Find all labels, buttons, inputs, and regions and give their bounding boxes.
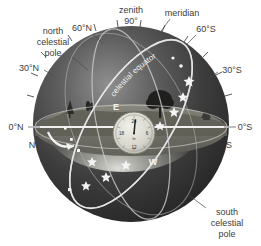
dec-60s-label: 60°S xyxy=(196,24,216,34)
cardinal-east-label: E xyxy=(113,102,119,112)
dial-label-bottom: 12 xyxy=(131,145,137,150)
diagram-canvas: 24 6 12 18 hr E W celestial equator nort… xyxy=(0,0,261,246)
cardinal-south-label: S xyxy=(226,140,232,150)
cardinal-west-label: W xyxy=(149,157,158,167)
dial-label-right: 6 xyxy=(146,131,149,136)
cardinal-north-label: N xyxy=(29,140,36,150)
dial-label-left: 18 xyxy=(119,131,125,136)
zenith-label: zenith xyxy=(119,5,143,15)
dec-0n-label: 0°N xyxy=(8,122,23,132)
meridian-label: meridian xyxy=(165,8,200,18)
dec-60n-label: 60°N xyxy=(72,23,92,33)
dec-30s-label: 30°S xyxy=(222,65,242,75)
celestial-sphere-figure: 24 6 12 18 hr E W celestial equator nort… xyxy=(0,0,261,246)
zenith-value-label: 90° xyxy=(124,16,138,26)
dec-30n-label: 30°N xyxy=(19,63,39,73)
south-celestial-pole-leader xyxy=(190,196,206,208)
south-celestial-pole-line2: celestial xyxy=(211,218,244,228)
north-celestial-pole-line1: north xyxy=(43,26,64,36)
dial-hub xyxy=(133,133,135,135)
south-celestial-pole-line3: pole xyxy=(218,229,235,239)
dial-label-top: 24 xyxy=(131,119,137,124)
north-celestial-pole-line2: celestial xyxy=(37,37,70,47)
hour-dial[interactable]: 24 6 12 18 hr xyxy=(113,112,155,154)
north-celestial-pole-line3: pole xyxy=(44,48,61,58)
dec-0s-label: 0°S xyxy=(238,122,253,132)
south-celestial-pole-line1: south xyxy=(216,207,238,217)
